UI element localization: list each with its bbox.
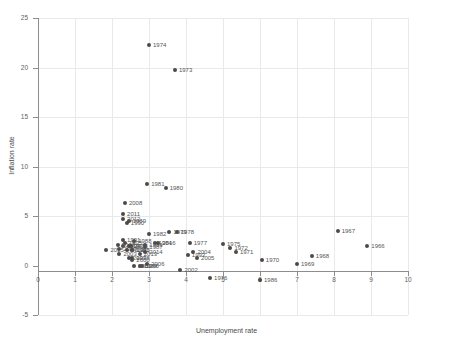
data-point[interactable] <box>143 250 147 254</box>
x-axis-tick-label: 4 <box>177 277 195 284</box>
data-point-label: 1967 <box>342 228 355 234</box>
x-axis-tick-label: 9 <box>362 277 380 284</box>
gridline-horizontal <box>38 117 408 118</box>
x-axis-tick-label: 8 <box>325 277 343 284</box>
data-point[interactable] <box>116 243 120 247</box>
data-point[interactable] <box>156 241 160 245</box>
data-point[interactable] <box>221 242 225 246</box>
data-point[interactable] <box>127 256 131 260</box>
y-axis-tick-label: -5 <box>0 312 28 319</box>
y-axis-tick <box>33 266 38 267</box>
data-point-label: 1977 <box>194 240 207 246</box>
data-point-label: 1982 <box>153 231 166 237</box>
data-point[interactable] <box>129 244 133 248</box>
x-axis-tick-label: 0 <box>29 277 47 284</box>
y-axis-tick <box>33 167 38 168</box>
data-point-label: 1974 <box>153 42 166 48</box>
data-point-label: 1969 <box>301 261 314 267</box>
y-axis-tick-label: 0 <box>0 263 28 270</box>
data-point-label: 2018 <box>135 243 148 249</box>
data-point-label: 1975 <box>227 241 240 247</box>
data-point-label: 2006 <box>151 261 164 267</box>
y-axis-tick <box>33 117 38 118</box>
y-axis-tick <box>33 216 38 217</box>
gridline-horizontal <box>38 216 408 217</box>
data-point[interactable] <box>145 262 149 266</box>
y-axis-tick-label: 20 <box>0 65 28 72</box>
data-point[interactable] <box>195 256 199 260</box>
data-point-label: 1981 <box>151 181 164 187</box>
data-point[interactable] <box>336 229 340 233</box>
data-point[interactable] <box>310 254 314 258</box>
x-axis-tick-label: 1 <box>66 277 84 284</box>
data-point[interactable] <box>138 252 142 256</box>
data-point[interactable] <box>260 258 264 262</box>
y-axis-tick-label: 25 <box>0 15 28 22</box>
data-point[interactable] <box>186 253 190 257</box>
gridline-horizontal <box>38 315 408 316</box>
scatter-chart-figure: Unemployment rate Inflation rate -505101… <box>0 0 453 346</box>
y-axis-tick-label: 10 <box>0 164 28 171</box>
gridline-horizontal <box>38 18 408 19</box>
data-point-label: 2012 <box>127 216 140 222</box>
y-axis-tick-label: 5 <box>0 213 28 220</box>
gridline-horizontal <box>38 167 408 168</box>
data-point-label: 2008 <box>129 200 142 206</box>
data-point[interactable] <box>147 43 151 47</box>
x-axis-label: Unemployment rate <box>0 327 453 334</box>
y-axis-tick <box>33 315 38 316</box>
data-point-label: 1980 <box>170 185 183 191</box>
y-axis-tick <box>33 18 38 19</box>
gridline-horizontal <box>38 68 408 69</box>
data-point-label: 1970 <box>266 257 279 263</box>
x-axis-tick-label: 3 <box>140 277 158 284</box>
data-point-label: 1979 <box>173 229 186 235</box>
x-axis-tick-label: 10 <box>399 277 417 284</box>
data-point[interactable] <box>188 241 192 245</box>
data-point-label: 2002 <box>184 267 197 273</box>
data-point-label: 1986 <box>264 277 277 283</box>
data-point-label: 1966 <box>371 243 384 249</box>
data-point-label: 1968 <box>316 253 329 259</box>
data-point-label: 1976 <box>214 275 227 281</box>
data-point[interactable] <box>147 232 151 236</box>
y-axis-tick <box>33 68 38 69</box>
x-axis-tick-label: 7 <box>288 277 306 284</box>
data-point-label: 2014 <box>149 249 162 255</box>
data-point-label: 2005 <box>201 255 214 261</box>
data-point-label: 2016 <box>162 240 175 246</box>
data-point-label: 1973 <box>179 67 192 73</box>
data-point[interactable] <box>295 262 299 266</box>
data-point[interactable] <box>125 248 129 252</box>
y-axis-tick-label: 15 <box>0 114 28 121</box>
x-axis-tick-label: 2 <box>103 277 121 284</box>
